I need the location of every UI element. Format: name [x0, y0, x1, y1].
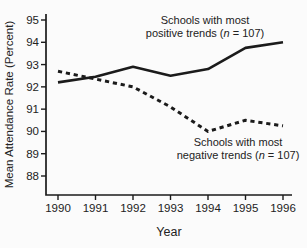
x-tick-label: 1990 [45, 202, 71, 214]
series-negative-trends-line [58, 71, 283, 131]
y-tick-label: 92 [26, 81, 39, 93]
annotation-positive-label: Schools with mostpositive trends (n = 10… [146, 14, 264, 39]
x-tick-label: 1991 [83, 202, 109, 214]
x-tick-label: 1993 [158, 202, 184, 214]
y-tick-label: 94 [26, 36, 39, 48]
y-tick-label: 89 [26, 148, 39, 160]
attendance-line-chart: 9594939291908988199019911992199319941995… [0, 0, 307, 248]
y-tick-label: 93 [26, 59, 39, 71]
y-tick-label: 95 [26, 14, 39, 26]
x-tick-label: 1994 [195, 202, 221, 214]
x-axis-title: Year [156, 225, 181, 239]
x-tick-label: 1992 [120, 202, 146, 214]
y-tick-label: 90 [26, 125, 39, 137]
x-tick-label: 1995 [233, 202, 259, 214]
attendance-rate-figure: 9594939291908988199019911992199319941995… [0, 0, 307, 248]
x-tick-label: 1996 [270, 202, 296, 214]
annotation-negative-label: Schools with mostnegative trends (n = 10… [177, 136, 300, 161]
series-positive-trends-line [58, 42, 283, 82]
axis-lines [46, 14, 292, 195]
y-tick-label: 88 [26, 170, 39, 182]
y-axis-title: Mean Attendance Rate (Percent) [3, 21, 15, 189]
y-tick-label: 91 [26, 103, 39, 115]
